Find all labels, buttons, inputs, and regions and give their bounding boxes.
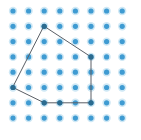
- lattice-dot: [73, 8, 78, 13]
- pentagon-vertex-top: [42, 24, 47, 29]
- lattice-dot: [120, 70, 125, 75]
- lattice-dot: [10, 100, 15, 105]
- lattice-dot: [57, 116, 62, 121]
- lattice-dot: [26, 116, 31, 121]
- lattice-dot: [57, 70, 62, 75]
- pentagon-vertex-right: [88, 54, 93, 59]
- lattice-dot: [57, 24, 62, 29]
- lattice-dot: [42, 85, 47, 90]
- lattice-dot: [73, 54, 78, 59]
- lattice-dot: [42, 54, 47, 59]
- lattice-dot: [104, 100, 109, 105]
- lattice-dot: [104, 24, 109, 29]
- bottom-edge-lattice-point: [57, 100, 62, 105]
- lattice-dot: [104, 85, 109, 90]
- lattice-dot: [120, 100, 125, 105]
- lattice-dot: [26, 39, 31, 44]
- lattice-dot: [26, 100, 31, 105]
- lattice-dot: [104, 116, 109, 121]
- lattice-dot: [10, 24, 15, 29]
- lattice-dot: [26, 24, 31, 29]
- lattice-dot: [120, 85, 125, 90]
- lattice-dot: [42, 8, 47, 13]
- figure-canvas: [0, 0, 141, 140]
- lattice-dot: [57, 39, 62, 44]
- lattice-dot: [10, 39, 15, 44]
- lattice-dot: [73, 70, 78, 75]
- lattice-dot: [104, 39, 109, 44]
- pentagon-vertex-bottom-left: [42, 100, 47, 105]
- lattice-dot: [26, 85, 31, 90]
- lattice-dot: [10, 116, 15, 121]
- lattice-dot: [42, 39, 47, 44]
- dot-grid-figure: [0, 0, 141, 140]
- lattice-dot: [73, 24, 78, 29]
- lattice-dot: [26, 8, 31, 13]
- lattice-dot: [120, 54, 125, 59]
- lattice-dot: [88, 24, 93, 29]
- lattice-dot: [88, 39, 93, 44]
- lattice-dot: [73, 116, 78, 121]
- lattice-dot: [10, 70, 15, 75]
- lattice-dot: [120, 116, 125, 121]
- lattice-dot: [104, 8, 109, 13]
- lattice-dot: [26, 70, 31, 75]
- lattice-dot: [104, 70, 109, 75]
- lattice-dot: [10, 8, 15, 13]
- lattice-dot: [120, 8, 125, 13]
- pentagon-vertex-left: [10, 85, 15, 90]
- lattice-dot: [57, 85, 62, 90]
- lattice-dot: [57, 8, 62, 13]
- lattice-dot: [73, 39, 78, 44]
- lattice-dot: [42, 116, 47, 121]
- lattice-dot: [42, 70, 47, 75]
- lattice-dot: [120, 24, 125, 29]
- lattice-dot: [88, 8, 93, 13]
- lattice-dot: [57, 54, 62, 59]
- lattice-dot: [120, 39, 125, 44]
- lattice-dot: [88, 116, 93, 121]
- lattice-dot: [73, 85, 78, 90]
- lattice-dot: [10, 54, 15, 59]
- pentagon-vertex-bottom-right: [88, 100, 93, 105]
- lattice-dot: [104, 54, 109, 59]
